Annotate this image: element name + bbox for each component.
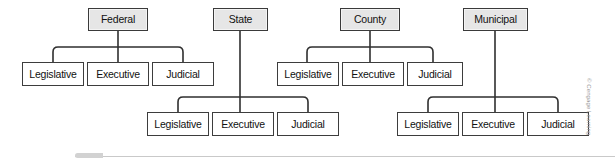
node-municipal-legislative: Legislative xyxy=(397,112,459,136)
node-county-executive-label: Executive xyxy=(349,69,397,80)
node-federal-judicial-label: Judicial xyxy=(164,69,201,80)
node-federal-judicial: Judicial xyxy=(152,62,214,86)
node-municipal: Municipal xyxy=(463,8,528,31)
copyright-credit: © Cengage Learning xyxy=(582,78,592,148)
node-state-legislative: Legislative xyxy=(147,112,209,136)
node-federal-legislative: Legislative xyxy=(22,62,84,86)
node-federal-label: Federal xyxy=(99,14,137,25)
node-federal-executive-label: Executive xyxy=(94,69,142,80)
node-municipal-executive: Executive xyxy=(462,112,524,136)
footer-divider xyxy=(75,156,615,157)
government-structure-diagram: Federal Legislative Executive Judicial S… xyxy=(0,0,615,165)
node-county-judicial: Judicial xyxy=(407,62,463,86)
node-municipal-legislative-label: Legislative xyxy=(402,119,453,130)
node-county-legislative: Legislative xyxy=(277,62,339,86)
node-county: County xyxy=(340,8,400,31)
node-federal-legislative-label: Legislative xyxy=(27,69,78,80)
node-county-executive: Executive xyxy=(342,62,404,86)
federal-bus xyxy=(53,47,183,62)
node-municipal-label: Municipal xyxy=(472,14,519,25)
node-state: State xyxy=(213,8,268,31)
node-state-judicial: Judicial xyxy=(277,112,339,136)
node-state-legislative-label: Legislative xyxy=(152,119,203,130)
node-county-judicial-label: Judicial xyxy=(416,69,453,80)
node-state-label: State xyxy=(227,14,255,25)
node-municipal-executive-label: Executive xyxy=(469,119,517,130)
node-federal-executive: Executive xyxy=(87,62,149,86)
node-state-judicial-label: Judicial xyxy=(289,119,326,130)
node-county-legislative-label: Legislative xyxy=(282,69,333,80)
node-municipal-judicial-label: Judicial xyxy=(539,119,576,130)
footer-divider-cap xyxy=(75,153,103,158)
county-bus xyxy=(307,47,433,62)
state-bus xyxy=(178,97,308,112)
municipal-bus xyxy=(428,97,558,112)
node-county-label: County xyxy=(352,14,388,25)
node-municipal-judicial: Judicial xyxy=(527,112,589,136)
node-state-executive-label: Executive xyxy=(219,119,267,130)
node-state-executive: Executive xyxy=(212,112,274,136)
node-federal: Federal xyxy=(88,8,148,31)
